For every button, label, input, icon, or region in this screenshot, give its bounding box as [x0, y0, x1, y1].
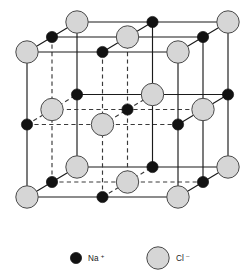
ion-chloride — [41, 98, 63, 120]
ion-sodium — [97, 191, 108, 202]
ion-chloride — [91, 113, 113, 135]
ion-sodium — [222, 89, 233, 100]
lattice-ions — [16, 11, 239, 208]
legend: Na +Cl – — [70, 247, 190, 269]
legend-marker-chloride — [147, 247, 169, 269]
ion-sodium — [197, 176, 208, 187]
ion-sodium — [71, 89, 82, 100]
ion-chloride — [217, 11, 239, 33]
ion-sodium — [46, 31, 57, 42]
lattice-diagram: Na +Cl – — [0, 0, 251, 280]
legend-marker-sodium — [70, 252, 81, 263]
legend-charge-sodium: + — [101, 252, 105, 259]
ion-chloride — [16, 186, 38, 208]
ion-chloride — [116, 26, 138, 48]
ion-sodium — [197, 31, 208, 42]
ion-sodium — [147, 16, 158, 27]
ion-chloride — [141, 83, 163, 105]
ion-chloride — [167, 186, 189, 208]
ion-sodium — [21, 119, 32, 130]
ion-sodium — [147, 161, 158, 172]
ion-chloride — [217, 156, 239, 178]
ion-chloride — [192, 98, 214, 120]
legend-label-chloride: Cl – — [176, 252, 190, 263]
ion-chloride — [66, 156, 88, 178]
legend-label-sodium: Na + — [88, 252, 105, 263]
ion-sodium — [122, 104, 133, 115]
ion-sodium — [172, 119, 183, 130]
ion-chloride — [167, 41, 189, 63]
ion-chloride — [116, 171, 138, 193]
ion-sodium — [46, 176, 57, 187]
legend-charge-chloride: – — [186, 252, 190, 259]
crystal-structure-figure: Na +Cl – — [0, 0, 251, 280]
ion-sodium — [97, 46, 108, 57]
ion-chloride — [16, 41, 38, 63]
ion-chloride — [66, 11, 88, 33]
